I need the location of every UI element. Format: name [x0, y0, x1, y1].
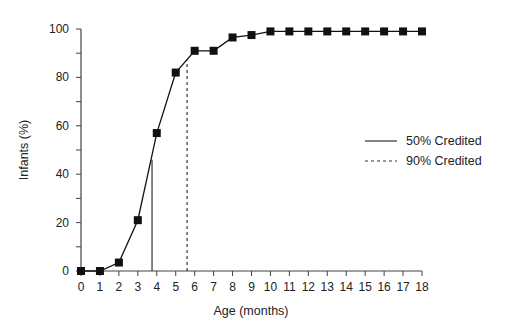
data-point-marker: [191, 47, 199, 55]
data-point-marker: [153, 129, 161, 137]
data-point-marker: [134, 216, 142, 224]
data-point-marker: [304, 27, 312, 35]
data-point-marker: [399, 27, 407, 35]
y-axis-label: Infants (%): [17, 120, 31, 180]
legend-label-90: 90% Credited: [406, 154, 482, 168]
series-line: [81, 31, 422, 271]
x-tick-label: 9: [248, 280, 255, 294]
x-tick-label: 18: [415, 280, 429, 294]
y-tick-label: 0: [62, 264, 69, 278]
x-tick-label: 12: [302, 280, 316, 294]
data-point-marker: [323, 27, 331, 35]
y-tick-label: 80: [56, 70, 70, 84]
x-tick-label: 17: [396, 280, 410, 294]
legend-label-50: 50% Credited: [406, 134, 482, 148]
y-tick-label: 60: [56, 119, 70, 133]
x-tick-label: 8: [229, 280, 236, 294]
x-tick-label: 16: [377, 280, 391, 294]
data-point-marker: [172, 69, 180, 77]
line-chart: 0204060801000123456789101112131415161718…: [0, 0, 508, 336]
x-axis-label: Age (months): [213, 304, 288, 318]
x-tick-label: 13: [321, 280, 335, 294]
data-series: [77, 27, 426, 275]
axes: 0204060801000123456789101112131415161718: [49, 22, 429, 294]
x-tick-label: 1: [97, 280, 104, 294]
data-point-marker: [96, 267, 104, 275]
data-point-marker: [248, 31, 256, 39]
x-tick-label: 10: [264, 280, 278, 294]
x-tick-label: 7: [210, 280, 217, 294]
y-tick-label: 40: [56, 167, 70, 181]
data-point-marker: [77, 267, 85, 275]
x-tick-label: 3: [134, 280, 141, 294]
x-tick-label: 15: [358, 280, 372, 294]
y-tick-label: 100: [49, 22, 69, 36]
data-point-marker: [342, 27, 350, 35]
data-point-marker: [229, 33, 237, 41]
data-point-marker: [285, 27, 293, 35]
x-tick-label: 0: [78, 280, 85, 294]
y-tick-label: 20: [56, 216, 70, 230]
data-point-marker: [210, 47, 218, 55]
x-tick-label: 4: [153, 280, 160, 294]
x-tick-label: 6: [191, 280, 198, 294]
legend: 50% Credited 90% Credited: [365, 134, 482, 168]
x-tick-label: 5: [172, 280, 179, 294]
x-tick-label: 11: [283, 280, 296, 294]
data-point-marker: [361, 27, 369, 35]
data-point-marker: [380, 27, 388, 35]
data-point-marker: [115, 259, 123, 267]
data-point-marker: [266, 27, 274, 35]
x-tick-label: 14: [340, 280, 354, 294]
x-tick-label: 2: [116, 280, 123, 294]
data-point-marker: [418, 27, 426, 35]
